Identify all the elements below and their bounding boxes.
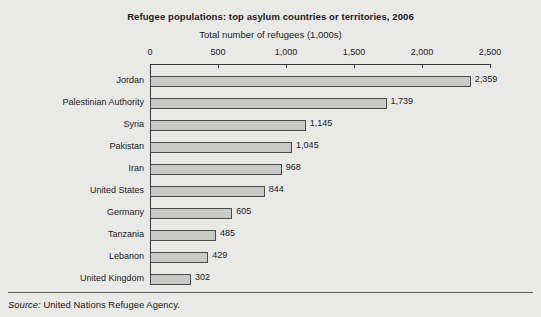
- bar-9: [150, 274, 191, 285]
- x-tick-3: [354, 64, 355, 68]
- bar-value-label-2: 1,145: [310, 118, 333, 128]
- category-label-5: United States: [0, 185, 144, 195]
- x-tick-label-1: 500: [210, 47, 225, 57]
- category-label-2: Syria: [0, 119, 144, 129]
- x-axis-line: [150, 64, 491, 65]
- chart-title: Refugee populations: top asylum countrie…: [0, 11, 541, 22]
- category-label-3: Pakistan: [0, 141, 144, 151]
- bar-row: Palestinian Authority1,739: [150, 94, 490, 116]
- bar-6: [150, 208, 232, 219]
- bar-row: United Kingdom302: [150, 270, 490, 292]
- source-text: United Nations Refugee Agency.: [43, 299, 180, 310]
- x-tick-2: [286, 64, 287, 68]
- bar-row: Jordan2,359: [150, 72, 490, 94]
- bar-value-label-6: 605: [236, 206, 251, 216]
- bar-value-label-5: 844: [269, 184, 284, 194]
- bar-value-label-9: 302: [195, 272, 210, 282]
- x-tick-label-0: 0: [147, 47, 152, 57]
- bar-row: Pakistan1,045: [150, 138, 490, 160]
- bar-row: Syria1,145: [150, 116, 490, 138]
- bar-value-label-0: 2,359: [475, 74, 498, 84]
- category-label-1: Palestinian Authority: [0, 97, 144, 107]
- bar-7: [150, 230, 216, 241]
- x-tick-0: [150, 64, 151, 68]
- source-label: Source:: [8, 299, 41, 310]
- x-tick-label-3: 1,500: [343, 47, 366, 57]
- bar-4: [150, 164, 282, 175]
- category-label-8: Lebanon: [0, 251, 144, 261]
- bar-value-label-7: 485: [220, 228, 235, 238]
- category-label-7: Tanzania: [0, 229, 144, 239]
- x-tick-label-2: 1,000: [275, 47, 298, 57]
- bar-value-label-1: 1,739: [391, 96, 414, 106]
- plot-area: 05001,0001,5002,0002,500 Jordan2,359Pale…: [150, 64, 490, 281]
- category-label-6: Germany: [0, 207, 144, 217]
- bar-row: Germany605: [150, 204, 490, 226]
- x-tick-1: [218, 64, 219, 68]
- x-tick-label-5: 2,500: [479, 47, 502, 57]
- bar-value-label-4: 968: [286, 162, 301, 172]
- bar-8: [150, 252, 208, 263]
- x-tick-4: [422, 64, 423, 68]
- bar-row: United States844: [150, 182, 490, 204]
- bar-value-label-8: 429: [212, 250, 227, 260]
- bar-2: [150, 120, 306, 131]
- bar-row: Tanzania485: [150, 226, 490, 248]
- footer-divider: [8, 292, 533, 293]
- bar-3: [150, 142, 292, 153]
- bar-row: Iran968: [150, 160, 490, 182]
- bar-row: Lebanon429: [150, 248, 490, 270]
- chart-subtitle: Total number of refugees (1,000s): [0, 29, 541, 40]
- bar-0: [150, 76, 471, 87]
- bar-value-label-3: 1,045: [296, 140, 319, 150]
- category-label-0: Jordan: [0, 75, 144, 85]
- category-label-4: Iran: [0, 163, 144, 173]
- x-tick-5: [490, 64, 491, 68]
- bar-5: [150, 186, 265, 197]
- chart-figure: Refugee populations: top asylum countrie…: [0, 0, 541, 317]
- bar-1: [150, 98, 387, 109]
- source-note: Source: United Nations Refugee Agency.: [8, 299, 180, 310]
- x-tick-label-4: 2,000: [411, 47, 434, 57]
- category-label-9: United Kingdom: [0, 273, 144, 283]
